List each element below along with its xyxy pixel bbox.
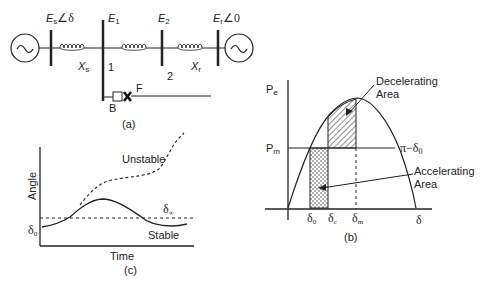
label-unstable: Unstable (122, 153, 165, 165)
equal-area-criterion-figure: Es∠δ E1 E2 Er∠0 Xs Xr 1 2 B F (a) Pe Pm … (0, 0, 484, 289)
breaker-icon (113, 92, 122, 101)
line-reactance-icon (122, 44, 146, 50)
label-e2: E2 (158, 12, 170, 26)
label-pe: Pe (266, 83, 278, 97)
label-es: Es∠δ (46, 11, 74, 26)
decelerating-area (328, 99, 356, 148)
xr-reactance-icon (178, 44, 202, 50)
label-stable: Stable (148, 229, 179, 241)
label-angle: Angle (26, 172, 38, 200)
label-decelerating: Decelerating (376, 75, 438, 87)
label-delta-c: δc (328, 211, 337, 226)
label-e1: E1 (108, 12, 120, 26)
accelerating-area (310, 148, 328, 208)
label-accelerating-area: Area (414, 178, 438, 190)
one-line-diagram: Es∠δ E1 E2 Er∠0 Xs Xr 1 2 B F (a) (11, 11, 253, 130)
caption-a: (a) (122, 118, 135, 130)
label-pm: Pm (266, 142, 280, 156)
caption-b: (b) (344, 231, 357, 243)
label-xr: Xr (190, 60, 201, 74)
label-delta-inf: δ∞ (163, 202, 174, 217)
angle-time-chart: Angle Time Unstable Stable δ∞ δ0 (c) (26, 133, 194, 276)
label-node-2: 2 (167, 70, 173, 82)
power-angle-chart: Pe Pm π−δ0 Decelerating Area Acceleratin… (265, 75, 475, 243)
caption-c: (c) (124, 264, 137, 276)
label-delta-0: δ0 (28, 223, 38, 238)
fault-x-icon (124, 92, 131, 101)
label-fault: F (136, 82, 143, 94)
label-breaker: B (109, 102, 116, 114)
label-decelerating-area: Area (376, 88, 400, 100)
accel-pointer (322, 174, 413, 188)
sending-generator-icon (11, 34, 39, 62)
unstable-curve (80, 133, 184, 205)
receiving-generator-icon (225, 34, 253, 62)
xs-reactance-icon (60, 44, 84, 50)
label-er: Er∠0 (213, 11, 240, 26)
label-delta-m: δm (352, 211, 364, 226)
label-pi-minus-d0: π−δ0 (400, 141, 422, 156)
label-time: Time (110, 250, 134, 262)
label-accelerating: Accelerating (414, 165, 475, 177)
label-node-1: 1 (108, 61, 114, 73)
label-delta-axis: δ (416, 213, 422, 227)
label-xs: Xs (77, 60, 89, 74)
label-delta-0: δ0 (307, 211, 317, 226)
